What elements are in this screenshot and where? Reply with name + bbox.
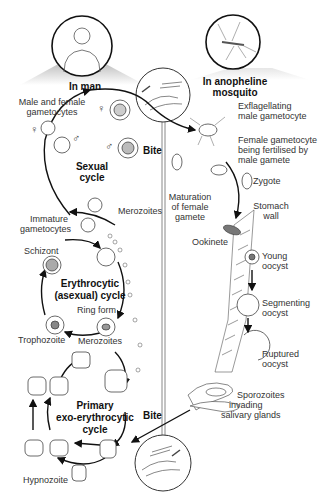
label-sporozoites-1: Sporozoites	[237, 390, 285, 400]
label-ruptured-oocyst-2: oocyst	[262, 359, 288, 369]
label-maturation-2: of female	[166, 202, 214, 212]
label-stomach-1: Stomach	[248, 201, 294, 211]
header-in-man: In man	[55, 81, 115, 92]
fertilisation-arrow	[226, 162, 239, 218]
female-symbol: ♀	[97, 103, 105, 113]
label-segmenting-oocyst-2: oocyst	[262, 308, 288, 318]
label-zygote: Zygote	[253, 176, 281, 186]
label-young-oocyst-1: Young	[262, 251, 287, 261]
label-gametocytes-1: Male and female	[12, 97, 92, 107]
label-exflagellating-2: male gametocyte	[238, 111, 307, 121]
label-merozoites-top: Merozoites	[118, 206, 162, 216]
label-merozoites-bottom: Merozoites	[78, 336, 122, 346]
primary-cycle-title-2: exo-erythrocytic	[50, 412, 140, 423]
erythrocytic-cycle-title-1: Erythrocytic	[60, 278, 120, 289]
sexual-cycle-title-1: Sexual	[70, 161, 114, 172]
primary-cycle-title-3: cycle	[65, 424, 125, 435]
label-bite-top: Bite	[143, 145, 162, 156]
header-in-mosquito-line1: In anopheline	[195, 76, 275, 87]
male-symbol-2: ♂	[72, 133, 80, 143]
sexual-cycle-title-2: cycle	[70, 172, 114, 183]
label-trophozoite: Trophozoite	[18, 335, 65, 345]
label-segmenting-oocyst-1: Segmenting	[262, 298, 310, 308]
label-maturation-1: Maturation	[166, 192, 214, 202]
label-gametocytes-2: gametocytes	[12, 107, 92, 117]
label-schizont: Schizont	[24, 246, 59, 256]
label-bite-bottom: Bite	[143, 410, 162, 421]
primary-cycle-title-1: Primary	[65, 400, 125, 411]
label-sporozoites-3: salivary glands	[221, 410, 281, 420]
bite-circle-top-icon	[136, 68, 190, 122]
label-female-gametocyte-1: Female gametocyte	[238, 135, 317, 145]
label-immature-2: gametocytes	[20, 224, 71, 234]
bite-circle-bottom-icon	[135, 435, 191, 491]
label-ruptured-oocyst-1: Ruptured	[262, 349, 299, 359]
header-in-mosquito-line2: mosquito	[195, 87, 275, 98]
label-stomach-2: wall	[248, 211, 294, 221]
human-icon	[52, 16, 112, 76]
label-ookinete: Ookinete	[192, 237, 228, 247]
label-female-gametocyte-2: being fertilised by	[238, 145, 308, 155]
male-symbol: ♂	[105, 141, 113, 151]
label-maturation-3: gamete	[166, 212, 214, 222]
label-immature-1: Immature	[30, 214, 68, 224]
female-symbol-2: ♀	[30, 124, 38, 134]
erythrocytic-cycle-title-2: (asexual) cycle	[52, 290, 128, 301]
label-sporozoites-2: invading	[229, 400, 263, 410]
mosquito-icon	[206, 15, 260, 69]
label-exflagellating-1: Exflagellating	[238, 101, 292, 111]
label-hypnozoite: Hypnozoite	[23, 475, 68, 485]
erythrocytic-cycle-arrow	[65, 240, 100, 248]
label-female-gametocyte-3: male gamete	[238, 155, 290, 165]
label-young-oocyst-2: oocyst	[262, 261, 288, 271]
label-ring-form: Ring form	[77, 305, 116, 315]
